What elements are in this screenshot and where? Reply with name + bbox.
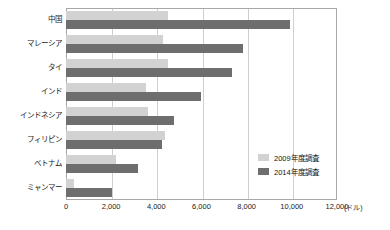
legend-item: 2009年度調査 (258, 152, 336, 163)
bar (66, 44, 243, 53)
horizontal-bar-chart: 中国マレーシアタイインドインドネシアフィリピンベトナムミャンマー 02,0004… (0, 0, 390, 230)
chart-legend: 2009年度調査2014年度調査 (258, 152, 336, 180)
category-label: ミャンマー (0, 176, 62, 200)
bar (66, 107, 148, 116)
bar (66, 140, 162, 149)
bar (66, 155, 116, 164)
bar (66, 11, 168, 20)
category-label: 中国 (0, 8, 62, 32)
bar-group (66, 128, 337, 152)
x-tick-label: 8,000 (237, 202, 256, 211)
legend-swatch-icon (258, 168, 269, 175)
x-tick-label: 0 (64, 202, 68, 211)
x-tick-label: 4,000 (147, 202, 166, 211)
bar (66, 68, 232, 77)
bar (66, 83, 146, 92)
bar (66, 188, 112, 197)
bar-group (66, 80, 337, 104)
bar (66, 164, 138, 173)
legend-label: 2014年度調査 (274, 166, 319, 177)
x-tick-label: 10,000 (280, 202, 303, 211)
category-label: インド (0, 80, 62, 104)
legend-swatch-icon (258, 154, 269, 161)
category-label: マレーシア (0, 32, 62, 56)
bar (66, 131, 165, 140)
x-axis-tick-labels: 02,0004,0006,0008,00010,00012,000(ドル) (0, 202, 390, 216)
bar (66, 179, 74, 188)
bar-group (66, 104, 337, 128)
legend-item: 2014年度調査 (258, 166, 336, 177)
x-tick-label: 2,000 (102, 202, 121, 211)
bar (66, 20, 290, 29)
category-axis-labels: 中国マレーシアタイインドインドネシアフィリピンベトナムミャンマー (0, 8, 62, 200)
bar (66, 116, 174, 125)
category-label: タイ (0, 56, 62, 80)
bar (66, 59, 168, 68)
bar (66, 35, 163, 44)
x-tick-label: 6,000 (192, 202, 211, 211)
bar-group (66, 32, 337, 56)
x-axis-unit-label: (ドル) (344, 202, 363, 212)
bar-group (66, 8, 337, 32)
category-label: フィリピン (0, 128, 62, 152)
category-label: インドネシア (0, 104, 62, 128)
bar-group (66, 56, 337, 80)
bar (66, 92, 201, 101)
legend-label: 2009年度調査 (274, 152, 319, 163)
category-label: ベトナム (0, 152, 62, 176)
